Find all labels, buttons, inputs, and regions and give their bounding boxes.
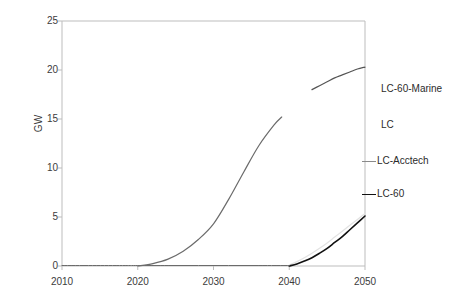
x-tick-label: 2050	[340, 277, 390, 287]
series-line-lc-acctech	[138, 117, 282, 266]
legend-label-lc[interactable]: LC	[381, 120, 394, 130]
y-tick-label: 25	[30, 16, 58, 26]
y-axis-ticks: 0510152025	[28, 0, 58, 308]
y-tick-label: 5	[30, 212, 58, 222]
series-line-lc	[289, 214, 365, 265]
plot-area	[0, 0, 470, 308]
y-tick-label: 20	[30, 65, 58, 75]
series-line-lc-60	[289, 216, 365, 266]
y-tick-label: 10	[30, 163, 58, 173]
x-tick-label: 2030	[189, 277, 239, 287]
x-tick-label: 2010	[37, 277, 87, 287]
y-tick-label: 15	[30, 114, 58, 124]
x-tick-label: 2040	[264, 277, 314, 287]
legend-label-lc-60[interactable]: LC-60	[377, 189, 404, 199]
series-line-lc-60-marine	[312, 67, 365, 90]
legend-label-lc-60-marine[interactable]: LC-60-Marine	[381, 84, 442, 94]
legend-swatch-lc-acctech	[362, 161, 376, 162]
legend-label-lc-acctech[interactable]: LC-Acctech	[377, 156, 429, 166]
legend-swatch-lc-60	[362, 194, 376, 195]
y-tick-label: 0	[30, 261, 58, 271]
chart-container: GW 0510152025 20102020203020402050 LC-60…	[0, 0, 470, 308]
x-tick-label: 2020	[113, 277, 163, 287]
